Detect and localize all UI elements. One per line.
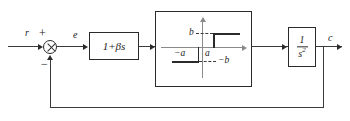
block-plant[interactable]: 1 s2 — [288, 27, 316, 67]
error-arrowhead — [83, 44, 88, 50]
relay-lower-segment — [172, 61, 199, 63]
block-relay-hysteresis[interactable]: b −b a −a — [155, 11, 252, 87]
block-plant-denominator: s2 — [297, 47, 308, 59]
relay-negative-b-dashed-tick — [199, 61, 216, 62]
block-compensator[interactable]: 1+βs — [89, 32, 139, 60]
signal-label-c: c — [328, 33, 332, 43]
relay-label-b: b — [189, 28, 194, 38]
feedback-arrowhead — [47, 55, 53, 60]
relay-upper-segment — [213, 33, 240, 35]
block-diagram-canvas: r + − e 1+βs b — [0, 0, 350, 121]
relay-label-negative-b: −b — [218, 56, 229, 66]
relay-falling-edge — [198, 47, 200, 62]
error-line — [57, 46, 85, 47]
input-line — [8, 46, 41, 47]
signal-label-r: r — [25, 28, 29, 38]
relay-vertical-axis-arrowhead — [200, 17, 206, 22]
relay-label-a: a — [205, 49, 210, 59]
feedback-takeoff-line — [323, 46, 324, 107]
relay-b-dashed-tick — [196, 33, 213, 34]
block-compensator-label: 1+βs — [90, 40, 138, 52]
relay-horizontal-axis-arrowhead — [242, 45, 247, 51]
summing-junction-plus-sign: + — [39, 27, 46, 39]
compensator-to-relay-arrowhead — [150, 44, 155, 50]
output-arrowhead — [337, 44, 342, 50]
relay-rising-edge — [213, 33, 215, 48]
block-plant-label: 1 s2 — [289, 35, 315, 58]
relay-label-negative-a: −a — [174, 49, 185, 59]
feedback-riser-line — [50, 60, 51, 107]
signal-label-e: e — [73, 30, 77, 40]
feedback-bottom-line — [50, 107, 324, 108]
block-plant-exponent: 2 — [302, 46, 306, 54]
summing-junction — [43, 40, 57, 54]
relay-vertical-axis — [202, 21, 203, 78]
relay-to-plant-arrowhead — [282, 44, 287, 50]
